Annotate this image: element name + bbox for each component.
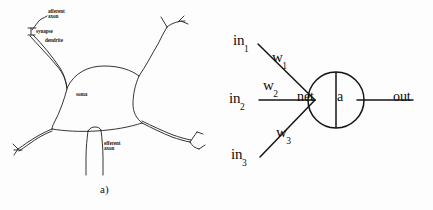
artificial-neuron-drawing <box>215 0 433 210</box>
weight-2-subscript: 2 <box>273 89 278 99</box>
dendrite-upper-right <box>139 27 167 76</box>
input-1-text: in <box>233 32 244 48</box>
label-weight-2: w2 <box>263 78 278 97</box>
dendrite-lr-branch-2a <box>199 145 205 149</box>
panel-artificial-neuron: in1 in2 in3 w1 w2 w3 net a out b) <box>215 0 433 210</box>
dendrite-ll-tip-1 <box>13 144 18 149</box>
label-node-activation: a <box>337 90 343 105</box>
dendrite-lr-branch-2 <box>190 142 199 149</box>
dendrite-right-2 <box>142 121 191 140</box>
label-node-net: net <box>297 90 314 105</box>
caption-panel-a: a) <box>100 183 109 195</box>
input-1-subscript: 1 <box>244 44 249 54</box>
soma-right-membrane <box>133 76 142 123</box>
label-input-2: in2 <box>229 91 245 110</box>
weight-1-subscript: 1 <box>282 61 287 71</box>
dendrite-lr-branch-1 <box>190 132 197 142</box>
label-input-1: in1 <box>233 33 249 52</box>
efferent-axon-right <box>101 130 103 175</box>
figure-neuron-comparison: afferent axon synapse dendrite soma effe… <box>0 0 433 210</box>
weight-3-subscript: 3 <box>286 136 291 146</box>
dendrite-ur-branch-1 <box>161 17 167 27</box>
label-input-3: in3 <box>231 147 247 166</box>
label-output: out <box>393 90 411 105</box>
efferent-axon-left <box>86 131 88 175</box>
label-weight-1: w1 <box>272 50 287 69</box>
dendrite-lower-left <box>18 129 52 149</box>
input-2-text: in <box>229 90 240 106</box>
input-3-text: in <box>231 146 242 162</box>
dendrite-upper-left <box>30 36 67 88</box>
soma-left-membrane <box>52 89 67 129</box>
label-weight-3: w3 <box>276 125 291 144</box>
biological-neuron-drawing <box>0 0 215 210</box>
panel-biological-neuron: afferent axon synapse dendrite soma effe… <box>0 0 215 210</box>
input-3-subscript: 3 <box>242 158 247 168</box>
dendrite-lr-branch-1a <box>197 132 203 134</box>
soma-top-membrane <box>67 66 139 88</box>
dendrite-lower-left-2 <box>19 131 52 151</box>
label-efferent-axon: efferent axon <box>104 141 120 152</box>
label-soma: soma <box>76 92 87 97</box>
label-synapse: synapse <box>36 29 53 34</box>
label-afferent-axon: afferent axon <box>48 9 65 20</box>
label-dendrite: dendrite <box>45 38 63 43</box>
input-2-subscript: 2 <box>240 102 245 112</box>
